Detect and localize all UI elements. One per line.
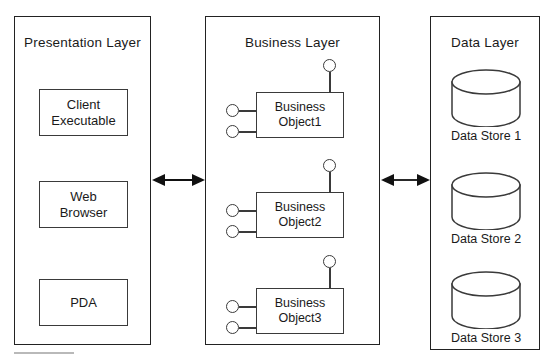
interface-lollipop-left-upper-circle[interactable] <box>226 300 239 313</box>
interface-lollipop-left-upper-stem <box>239 306 257 308</box>
interface-lollipop-top-circle[interactable] <box>323 255 336 268</box>
interface-lollipop-left-lower-stem <box>239 131 257 133</box>
scan-artifact-line <box>14 352 74 354</box>
interface-lollipop-left-lower-circle[interactable] <box>226 125 239 138</box>
business-data-arrow[interactable] <box>381 163 430 197</box>
node-web-browser-label: Web Browser <box>60 189 108 221</box>
database-cylinder-icon <box>448 271 524 329</box>
data-store-3[interactable]: Data Store 3 <box>448 271 524 349</box>
diagram-canvas: Presentation Layer Client Executable Web… <box>0 0 556 360</box>
interface-lollipop-left-upper-circle[interactable] <box>226 104 239 117</box>
layer-data-title: Data Layer <box>431 35 539 50</box>
interface-lollipop-left-lower-stem <box>239 327 257 329</box>
node-pda[interactable]: PDA <box>39 279 128 326</box>
data-store-1[interactable]: Data Store 1 <box>448 69 524 147</box>
interface-lollipop-top-stem <box>329 268 331 289</box>
interface-lollipop-top-stem <box>329 172 331 193</box>
business-object-3-label: Business Object3 <box>257 296 343 327</box>
interface-lollipop-top-circle[interactable] <box>323 159 336 172</box>
node-client-executable-label: Client Executable <box>51 97 115 129</box>
bidirectional-arrow-icon <box>381 163 430 197</box>
interface-lollipop-left-upper-circle[interactable] <box>226 204 239 217</box>
data-store-3-label: Data Store 3 <box>448 331 524 345</box>
business-object-1[interactable]: Business Object1 <box>226 59 368 141</box>
layer-presentation[interactable]: Presentation Layer Client Executable Web… <box>14 16 151 345</box>
presentation-business-arrow[interactable] <box>152 163 205 197</box>
business-object-3[interactable]: Business Object3 <box>226 255 368 337</box>
interface-lollipop-left-upper-stem <box>239 110 257 112</box>
node-client-executable[interactable]: Client Executable <box>39 89 128 136</box>
business-object-1-label: Business Object1 <box>257 100 343 131</box>
layer-business[interactable]: Business Layer Business Object1 <box>205 16 380 345</box>
interface-lollipop-left-lower-circle[interactable] <box>226 321 239 334</box>
layer-presentation-title: Presentation Layer <box>15 35 150 50</box>
bidirectional-arrow-icon <box>152 163 205 197</box>
node-web-browser[interactable]: Web Browser <box>39 181 128 228</box>
layer-data[interactable]: Data Layer Data Store 1 Data Store 2 Dat… <box>430 16 540 350</box>
database-cylinder-icon <box>448 69 524 127</box>
interface-lollipop-left-lower-stem <box>239 231 257 233</box>
interface-lollipop-top-stem <box>329 72 331 93</box>
data-store-2-label: Data Store 2 <box>448 232 524 246</box>
business-object-2-box[interactable]: Business Object2 <box>256 192 344 238</box>
interface-lollipop-top-circle[interactable] <box>323 59 336 72</box>
business-object-2-label: Business Object2 <box>257 200 343 231</box>
business-object-2[interactable]: Business Object2 <box>226 159 368 241</box>
business-object-3-box[interactable]: Business Object3 <box>256 288 344 334</box>
layer-business-title: Business Layer <box>206 35 379 50</box>
data-store-2[interactable]: Data Store 2 <box>448 172 524 250</box>
node-pda-label: PDA <box>70 295 97 311</box>
data-store-1-label: Data Store 1 <box>448 129 524 143</box>
database-cylinder-icon <box>448 172 524 230</box>
interface-lollipop-left-lower-circle[interactable] <box>226 225 239 238</box>
business-object-1-box[interactable]: Business Object1 <box>256 92 344 138</box>
interface-lollipop-left-upper-stem <box>239 210 257 212</box>
